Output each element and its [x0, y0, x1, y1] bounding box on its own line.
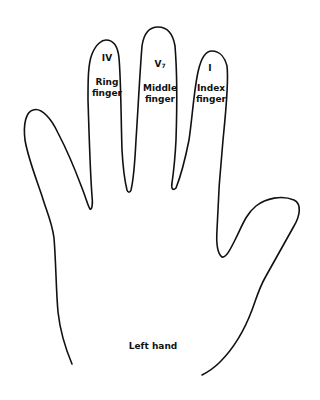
middle-finger-line2: finger — [141, 94, 179, 105]
middle-finger-label: Middle finger — [141, 83, 179, 105]
index-finger-numeral: I — [200, 63, 220, 74]
ring-numeral-text: IV — [102, 53, 112, 63]
index-finger-line1: Index — [195, 83, 227, 94]
middle-finger-numeral: V7 — [148, 59, 172, 71]
index-finger-label: Index finger — [195, 83, 227, 105]
hand-diagram: IV Ring finger V7 Middle finger I Index … — [0, 0, 320, 400]
ring-finger-numeral: IV — [95, 53, 119, 64]
middle-finger-line1: Middle — [141, 83, 179, 94]
pinky-outline — [24, 27, 299, 375]
index-numeral-text: I — [208, 63, 211, 73]
ring-finger-label: Ring finger — [90, 77, 124, 99]
hand-title: Left hand — [120, 341, 186, 352]
ring-finger-line1: Ring — [90, 77, 124, 88]
index-finger-line2: finger — [195, 94, 227, 105]
ring-finger-line2: finger — [90, 88, 124, 99]
middle-numeral-subscript: 7 — [161, 62, 165, 69]
